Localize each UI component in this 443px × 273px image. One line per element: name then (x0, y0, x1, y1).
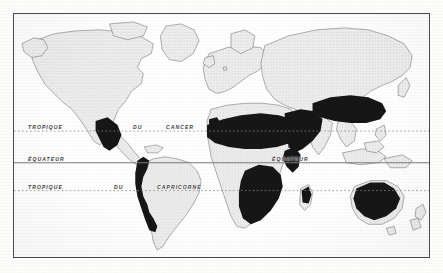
map-frame: TROPIQUE DU CANCER ÉQUATEUR ÉQUATEUR TRO… (13, 13, 430, 258)
map-figure: TROPIQUE DU CANCER ÉQUATEUR ÉQUATEUR TRO… (0, 0, 443, 273)
tropic-capricorn-label-right: CAPRICORNE (157, 184, 202, 190)
equator-label-west: ÉQUATEUR (28, 156, 65, 162)
tropic-cancer-label-right: CANCER (166, 124, 194, 130)
world-map-svg (14, 14, 429, 257)
tropic-cancer-label-mid: DU (133, 124, 142, 130)
tropic-cancer-label-left: TROPIQUE (28, 124, 63, 130)
tropic-capricorn-label-left: TROPIQUE (28, 184, 63, 190)
equator-label-east: ÉQUATEUR (272, 156, 309, 162)
tropic-capricorn-label-mid: DU (114, 184, 123, 190)
land-island-speck-2 (223, 67, 227, 71)
